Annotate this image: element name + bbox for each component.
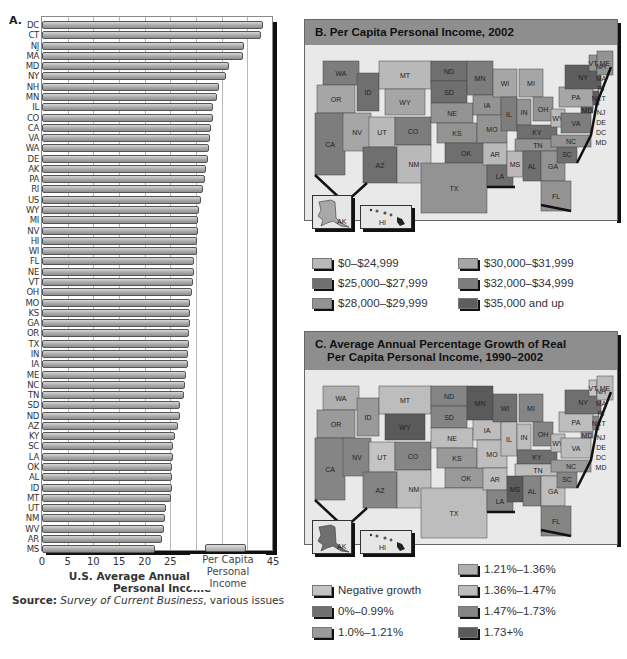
bar xyxy=(42,484,172,492)
svg-text:MI: MI xyxy=(527,405,535,412)
svg-text:IN: IN xyxy=(521,109,528,116)
svg-text:WI: WI xyxy=(501,80,510,87)
svg-text:TX: TX xyxy=(450,510,459,517)
svg-text:AL: AL xyxy=(528,163,537,170)
svg-text:WY: WY xyxy=(399,424,411,431)
bar xyxy=(42,165,206,173)
legend-swatch xyxy=(312,298,332,309)
bar-category-label: MS xyxy=(3,543,39,554)
svg-text:NM: NM xyxy=(409,486,420,493)
legend-item: $32,000–$34,999 xyxy=(458,276,574,290)
bar xyxy=(42,432,175,440)
svg-text:UT: UT xyxy=(377,454,387,461)
svg-text:MD: MD xyxy=(596,464,607,471)
x-tick-label: 15 xyxy=(113,556,126,567)
svg-text:SD: SD xyxy=(444,414,454,421)
svg-text:ND: ND xyxy=(444,68,454,75)
source-title: Survey of Current Business xyxy=(60,594,203,606)
svg-text:GA: GA xyxy=(548,488,558,495)
legend-swatch xyxy=(458,564,478,575)
legend-label: 0%–0.99% xyxy=(338,605,394,617)
panel-c-title: C. Average Annual Percentage Growth of R… xyxy=(305,332,617,370)
bar xyxy=(42,93,217,101)
svg-text:NV: NV xyxy=(352,454,362,461)
svg-text:IA: IA xyxy=(484,427,491,434)
bar xyxy=(42,442,173,450)
svg-text:NH: NH xyxy=(596,63,606,70)
legend-label: $30,000–$31,999 xyxy=(484,257,574,269)
x-tick-label: 10 xyxy=(87,556,100,567)
legend-label: 1.0%–1.21% xyxy=(338,626,403,638)
bar xyxy=(42,206,199,214)
svg-text:MT: MT xyxy=(400,72,411,79)
svg-text:RI: RI xyxy=(598,85,605,92)
svg-text:CA: CA xyxy=(325,466,335,473)
svg-text:OR: OR xyxy=(331,96,342,103)
legend-item: $0–$24,999 xyxy=(312,256,399,270)
svg-text:MS: MS xyxy=(510,161,521,168)
bar xyxy=(42,401,180,409)
svg-text:RI: RI xyxy=(598,410,605,417)
legend-item: 0%–0.99% xyxy=(312,604,394,618)
bar xyxy=(42,319,190,327)
legend-label: $28,000–$29,999 xyxy=(338,297,428,309)
plot-shadow xyxy=(273,22,277,555)
svg-text:MI: MI xyxy=(527,80,535,87)
hawaii-inset: HI xyxy=(360,205,412,229)
svg-text:AZ: AZ xyxy=(376,162,386,169)
bar xyxy=(42,42,244,50)
legend-label: $0–$24,999 xyxy=(338,257,399,269)
svg-text:OK: OK xyxy=(461,475,471,482)
svg-text:SD: SD xyxy=(444,89,454,96)
legend-line-1: Per Capita xyxy=(190,554,266,566)
svg-text:MN: MN xyxy=(475,400,486,407)
svg-text:DC: DC xyxy=(596,454,606,461)
legend-label: 1.36%–1.47% xyxy=(484,584,556,596)
legend-item: 1.0%–1.21% xyxy=(312,625,403,639)
bar xyxy=(42,52,243,60)
bar xyxy=(42,360,188,368)
svg-text:CO: CO xyxy=(408,128,419,135)
svg-text:FL: FL xyxy=(552,193,560,200)
legend-swatch xyxy=(458,278,478,289)
svg-text:GA: GA xyxy=(548,163,558,170)
bar xyxy=(42,155,208,163)
svg-text:WA: WA xyxy=(335,395,346,402)
alaska-inset: AK xyxy=(312,520,352,554)
hawaii-shape-icon xyxy=(361,531,413,555)
legend-item: 1.47%–1.73% xyxy=(458,604,556,618)
svg-text:KS: KS xyxy=(452,130,462,137)
bar xyxy=(42,309,190,317)
bar xyxy=(42,514,165,522)
svg-text:PA: PA xyxy=(572,419,581,426)
svg-text:WY: WY xyxy=(399,99,411,106)
svg-text:OH: OH xyxy=(538,431,549,438)
svg-text:IN: IN xyxy=(521,434,528,441)
legend-item: Negative growth xyxy=(312,583,421,597)
bar xyxy=(42,545,155,553)
panel-b-income-map: B. Per Capita Personal Income, 2002 WAOR… xyxy=(304,19,618,221)
svg-text:VA: VA xyxy=(572,120,581,127)
bar xyxy=(42,227,198,235)
svg-text:NY: NY xyxy=(578,74,588,81)
legend-swatch xyxy=(458,585,478,596)
hawaii-shape-icon xyxy=(361,206,413,230)
svg-text:ID: ID xyxy=(365,414,372,421)
legend-label: 1.47%–1.73% xyxy=(484,605,556,617)
legend-swatch xyxy=(458,606,478,617)
legend-item: 1.21%–1.36% xyxy=(458,562,556,576)
svg-text:TX: TX xyxy=(450,185,459,192)
legend-item: 1.73+% xyxy=(458,625,523,639)
svg-text:FL: FL xyxy=(552,518,560,525)
bar xyxy=(42,535,162,543)
svg-text:NM: NM xyxy=(409,161,420,168)
svg-text:WA: WA xyxy=(335,70,346,77)
svg-text:DE: DE xyxy=(596,444,606,451)
svg-text:CA: CA xyxy=(325,141,335,148)
svg-text:DE: DE xyxy=(596,119,606,126)
bar xyxy=(42,278,193,286)
legend-swatch xyxy=(312,278,332,289)
legend-swatch xyxy=(312,606,332,617)
bar xyxy=(42,124,211,132)
x-tick-label: 25 xyxy=(164,556,177,567)
